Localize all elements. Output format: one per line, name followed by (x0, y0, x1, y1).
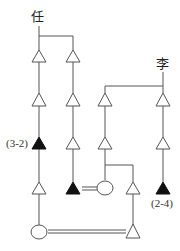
highlighted-male-node-icon (66, 182, 80, 194)
male-node-icon (32, 50, 46, 62)
male-node-icon (156, 137, 170, 149)
highlighted-male-node-icon (32, 137, 46, 149)
male-node-icon (32, 182, 46, 194)
highlighted-male-node-icon (156, 182, 170, 194)
male-node-icon (32, 93, 46, 106)
family-label-ren: 任 (31, 9, 44, 24)
male-node-icon (98, 137, 112, 149)
male-node-icon (66, 93, 80, 106)
male-node-icon (66, 137, 80, 149)
kinship-diagram: 任 李 (0, 0, 180, 251)
marker-label-3-2: (3-2) (6, 137, 28, 150)
family-label-li: 李 (156, 56, 169, 71)
female-node-icon (31, 225, 47, 239)
female-node-icon (97, 181, 113, 195)
male-node-icon (126, 224, 140, 238)
male-node-icon (98, 93, 112, 106)
marriage-line-r4b-l4a (82, 187, 97, 190)
male-node-icon (156, 93, 170, 106)
marriage-line-r5a-l5 (48, 230, 126, 233)
male-node-icon (126, 182, 140, 194)
ren-family-lines (39, 26, 73, 225)
marker-label-2-4: (2-4) (151, 197, 173, 210)
male-node-icon (66, 50, 80, 62)
